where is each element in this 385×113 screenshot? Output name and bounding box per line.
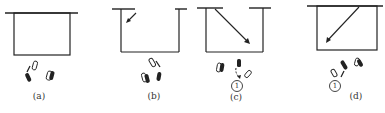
panel-a-label: (a)	[24, 91, 54, 101]
arrow-icon	[215, 9, 248, 42]
panel-a: (a)	[0, 0, 96, 113]
arrow-icon	[328, 7, 359, 40]
robot-marker: 1	[329, 80, 341, 92]
panel-b-label: (b)	[139, 91, 169, 101]
panel-b: (b)	[95, 0, 191, 113]
panel-c: 1 (c)	[190, 0, 286, 113]
panel-d: 1 (d)	[285, 0, 381, 113]
panel-c-label: (c)	[221, 92, 251, 102]
robot-marker: 1	[231, 80, 243, 92]
panel-d-label: (d)	[341, 91, 371, 101]
